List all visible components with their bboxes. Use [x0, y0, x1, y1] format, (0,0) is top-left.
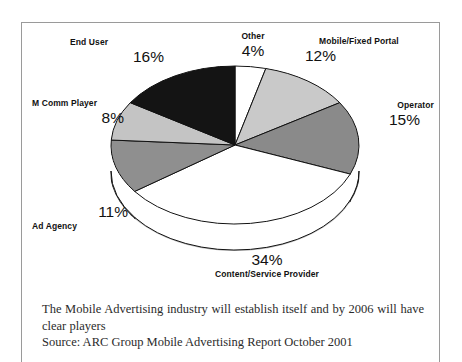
slice-name-end-user: End User [60, 37, 178, 48]
slice-name-operator: Operator [322, 100, 434, 111]
slice-label-ad-agency: 11% Ad Agency [24, 203, 146, 232]
slice-value-end-user: 16% [60, 48, 178, 66]
slice-name-content-service-provider: Content/Service Provider [177, 269, 357, 280]
pie-side-2 [350, 171, 359, 226]
slice-name-m-comm-player: M Comm Player [24, 98, 146, 109]
slice-label-m-comm-player: M Comm Player 8% [24, 98, 146, 127]
slice-value-ad-agency: 11% [24, 203, 146, 221]
caption-lead-text: The Mobile Advertising industry will est… [42, 301, 424, 334]
figure-frame: Other 4% Mobile/Fixed Portal 12% Operato… [21, 22, 440, 362]
slice-name-other: Other [218, 31, 288, 42]
slice-value-mobile-fixed-portal: 12% [305, 47, 435, 65]
pie-top-face [110, 65, 360, 225]
slice-label-content-service-provider: 34% Content/Service Provider [177, 251, 357, 280]
pie-graphic [110, 65, 360, 255]
pie-top-svg [110, 65, 360, 225]
slice-label-end-user: End User 16% [60, 37, 178, 66]
slice-value-content-service-provider: 34% [177, 251, 357, 269]
slice-name-mobile-fixed-portal: Mobile/Fixed Portal [305, 36, 435, 47]
figure-caption: The Mobile Advertising industry will est… [42, 301, 424, 351]
slice-name-ad-agency: Ad Agency [24, 221, 146, 232]
slice-value-operator: 15% [322, 111, 434, 129]
caption-source-text: Source: ARC Group Mobile Advertising Rep… [42, 334, 424, 351]
slice-value-m-comm-player: 8% [24, 109, 146, 127]
pie-chart: Other 4% Mobile/Fixed Portal 12% Operato… [22, 23, 441, 291]
slice-label-other: Other 4% [218, 31, 288, 60]
slice-value-other: 4% [218, 42, 288, 60]
slice-label-mobile-fixed-portal: Mobile/Fixed Portal 12% [305, 36, 435, 65]
slice-label-operator: Operator 15% [322, 100, 434, 129]
